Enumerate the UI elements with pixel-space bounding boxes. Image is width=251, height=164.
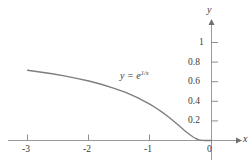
x-axis-label: x bbox=[243, 134, 247, 144]
y-axis-label: y bbox=[207, 5, 211, 15]
x-axis-arrow-icon bbox=[236, 138, 242, 144]
annotation-exponent: 1/x bbox=[141, 69, 149, 76]
x-tick-label-origin: 0 bbox=[207, 145, 212, 155]
x-tick-label: -2 bbox=[83, 145, 91, 155]
annotation-lhs: y bbox=[120, 70, 124, 81]
plot-canvas bbox=[0, 0, 251, 164]
x-tick-label: -1 bbox=[144, 145, 152, 155]
x-tick-label: -3 bbox=[22, 145, 30, 155]
y-tick-label: 0.8 bbox=[188, 58, 200, 68]
figure-container: -3 -2 -1 0 1 0.8 0.6 0.4 0.2 y x y = e1/… bbox=[0, 0, 251, 164]
y-tick-label: 1 bbox=[199, 38, 204, 48]
annotation-equals: = bbox=[127, 70, 134, 81]
curve-annotation: y = e1/x bbox=[120, 70, 149, 81]
y-tick-label: 0.2 bbox=[188, 116, 200, 126]
y-tick-label: 0.4 bbox=[188, 97, 200, 107]
y-tick-label: 0.6 bbox=[188, 77, 200, 87]
y-axis-arrow-icon bbox=[209, 19, 215, 25]
